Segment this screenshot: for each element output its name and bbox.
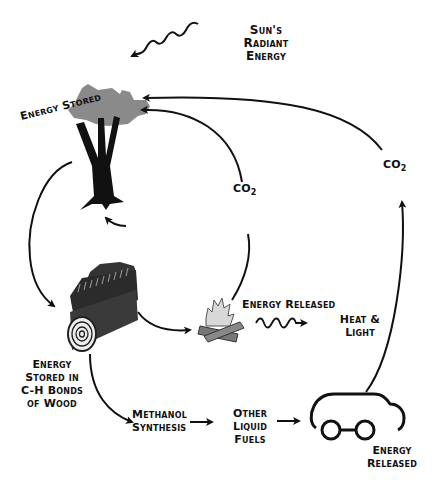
- car-label-line-1: Energy: [360, 444, 424, 457]
- car-icon: [311, 394, 404, 439]
- energy-cycle-diagram: Sun's Radiant Energy Energy Stored CO2 C…: [0, 0, 435, 491]
- fuels-label-line-3: Fuels: [228, 433, 272, 446]
- co2-inner-main: CO: [233, 182, 251, 195]
- heat-label-line-1: Heat &: [330, 313, 390, 326]
- wood-label-line-4: of Wood: [14, 397, 90, 410]
- co2-inner-subscript: 2: [251, 188, 257, 197]
- co2-outer-label: CO2: [383, 158, 407, 175]
- co2-to-tree-arrow: [142, 110, 242, 182]
- fuels-label-line-2: Liquid: [228, 420, 272, 433]
- wood-logs-icon: [68, 262, 138, 351]
- diagram-graphics: [0, 0, 435, 491]
- sun-radiant-energy-label: Sun's Radiant Energy: [226, 24, 306, 63]
- heat-label-line-2: Light: [330, 326, 390, 339]
- co2-outer-main: CO: [383, 158, 401, 171]
- fire-energy-released-label: Energy Released: [242, 298, 335, 311]
- wood-to-fire-arrow: [138, 312, 190, 330]
- other-liquid-fuels-label: Other Liquid Fuels: [228, 407, 272, 446]
- wood-label-line-3: C-H Bonds: [14, 384, 90, 397]
- co2-outer-subscript: 2: [401, 164, 407, 173]
- wood-label-line-2: Stored in: [14, 371, 90, 384]
- co2-to-tree-outer-arrow: [144, 97, 382, 150]
- co2-inner-label: CO2: [233, 182, 257, 199]
- sun-label-line-3: Energy: [226, 50, 306, 63]
- fire-co2-line: [232, 234, 249, 300]
- wood-energy-stored-label: Energy Stored in C-H Bonds of Wood: [14, 358, 90, 410]
- wood-to-methanol-arrow: [90, 354, 132, 422]
- car-label-line-2: Released: [360, 457, 424, 470]
- tree-to-wood-arrow: [29, 162, 72, 306]
- sun-radiant-arrow: [132, 23, 198, 56]
- methanol-label-line-1: Methanol: [132, 408, 187, 421]
- methanol-synthesis-label: Methanol Synthesis: [132, 408, 187, 434]
- methanol-label-line-2: Synthesis: [132, 421, 187, 434]
- wood-label-line-1: Energy: [14, 358, 90, 371]
- heat-light-label: Heat & Light: [330, 313, 390, 339]
- campfire-icon: [198, 298, 244, 342]
- heat-light-wavy-arrow: [256, 319, 306, 328]
- car-energy-released-label: Energy Released: [360, 444, 424, 470]
- fuels-label-line-1: Other: [228, 407, 272, 420]
- car-to-co2-arrow: [366, 202, 403, 392]
- ground-to-tree-arrow: [106, 218, 126, 226]
